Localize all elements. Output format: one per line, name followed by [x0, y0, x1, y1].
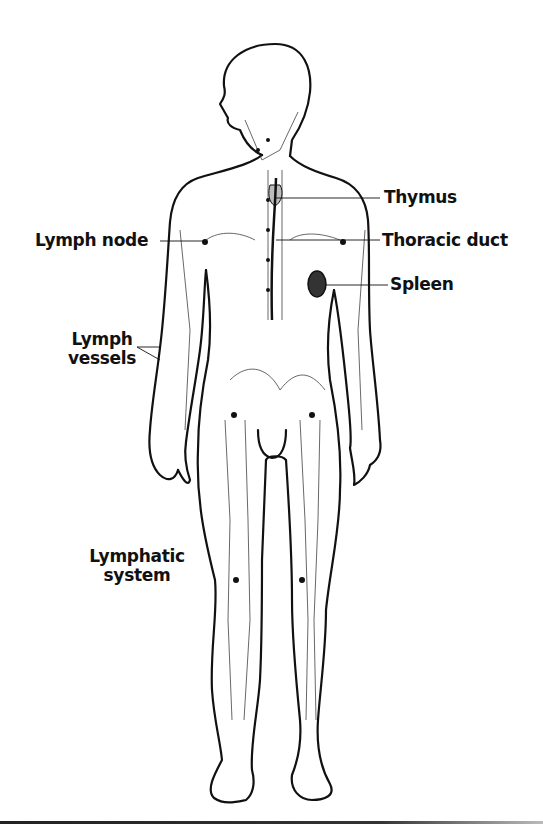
label-lymph-vessels: Lymph vessels [62, 330, 142, 368]
label-lymph-node: Lymph node [35, 231, 148, 250]
spleen-organ [308, 271, 326, 297]
bottom-divider [0, 821, 543, 824]
label-lymph-vessels-line1: Lymph [62, 330, 142, 349]
label-lymph-vessels-line2: vessels [62, 349, 142, 368]
label-spleen: Spleen [390, 275, 454, 294]
label-thoracic-duct: Thoracic duct [382, 231, 508, 250]
leader-lines [137, 198, 388, 360]
caption-line1: Lymphatic [82, 547, 192, 566]
label-thymus: Thymus [384, 188, 457, 207]
lymphatic-system-illustration [0, 0, 543, 840]
caption-line2: system [82, 566, 192, 585]
body-outline [149, 44, 380, 802]
caption-lymphatic-system: Lymphatic system [82, 547, 192, 585]
